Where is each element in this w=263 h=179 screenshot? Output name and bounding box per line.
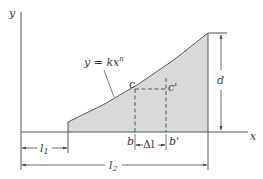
y-axis-label: y	[8, 7, 16, 20]
point-b-prime-label: b'	[169, 135, 179, 148]
l2-label: l2	[109, 159, 118, 173]
equation-leader-line	[104, 70, 114, 97]
point-b-label: b	[127, 135, 134, 148]
point-c-label: c	[129, 78, 135, 91]
x-axis-label: x	[250, 130, 257, 143]
area-under-curve-diagram: y x y = kxn c c' b b' Δl d l1 l2	[0, 0, 263, 179]
shaded-area	[68, 33, 208, 132]
l1-label: l1	[40, 142, 49, 156]
point-c-prime-label: c'	[168, 81, 177, 94]
delta-l-label: Δl	[143, 138, 155, 151]
d-label: d	[217, 74, 224, 87]
curve-equation-label: y = kxn	[83, 55, 124, 69]
